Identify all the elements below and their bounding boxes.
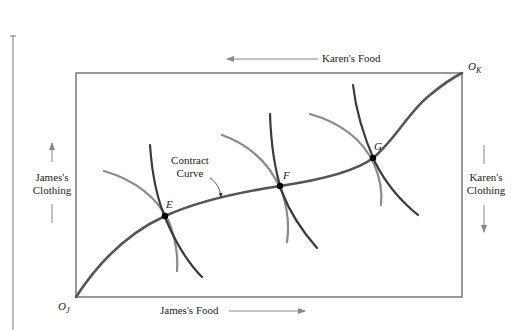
contract-curve-line2: Curve [160, 167, 220, 180]
karen-clothing-label: Karen's Clothing [462, 171, 510, 197]
james-food-label: James's Food [160, 304, 219, 317]
james-clothing-line2: Clothing [28, 184, 76, 197]
origin-james-sub: J [66, 306, 70, 315]
james-clothing-label: James's Clothing [28, 171, 76, 197]
origin-karen-sub: K [476, 66, 481, 75]
james-clothing-line1: James's [28, 171, 76, 184]
origin-karen-letter: O [468, 60, 476, 72]
point-e [162, 213, 168, 219]
margin-rule [10, 36, 16, 330]
point-f [277, 183, 283, 189]
point-f-label: F [283, 169, 290, 182]
contract-curve-line1: Contract [160, 154, 220, 167]
point-g [370, 155, 376, 161]
origin-james-label: OJ [58, 300, 70, 317]
karen-food-label: Karen's Food [322, 52, 381, 65]
point-e-label: E [166, 198, 173, 211]
origin-karen-label: OK [468, 60, 481, 77]
origin-james-letter: O [58, 300, 66, 312]
point-g-label: G [374, 140, 382, 153]
contract-curve-label: Contract Curve [160, 154, 220, 180]
contract-curve-pointer [210, 178, 221, 197]
karen-ic-g [353, 85, 418, 215]
karen-clothing-line2: Clothing [462, 184, 510, 197]
edgeworth-box-diagram [0, 0, 517, 330]
karen-clothing-line1: Karen's [462, 171, 510, 184]
